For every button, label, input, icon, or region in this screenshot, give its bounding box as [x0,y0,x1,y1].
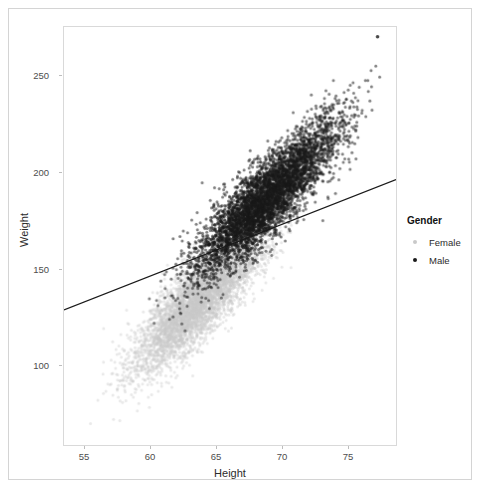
male-dot-icon [413,258,417,262]
x-tick-mark-65 [216,446,217,449]
legend-key-male-icon [407,252,423,268]
y-tick-label-100: 100 [9,360,49,371]
y-tick-mark-250 [59,75,62,76]
x-tick-mark-60 [150,446,151,449]
y-tick-mark-200 [59,172,62,173]
x-tick-mark-75 [348,446,349,449]
legend-item-male[interactable]: Male [407,251,473,269]
legend-label-male: Male [429,255,450,266]
legend-label-female: Female [429,237,461,248]
x-axis-title: Height [63,467,397,479]
legend-title: Gender [407,215,473,226]
x-tick-label-75: 75 [328,451,368,462]
plot-panel [63,26,397,446]
legend-key-female-icon [407,234,423,250]
y-tick-mark-150 [59,269,62,270]
chart-figure: 250 200 150 100 55 60 65 70 75 Height We… [8,8,472,480]
y-tick-mark-100 [59,365,62,366]
legend-item-female[interactable]: Female [407,233,473,251]
y-tick-label-200: 200 [9,167,49,178]
x-tick-mark-70 [282,446,283,449]
x-tick-label-60: 60 [130,451,170,462]
female-dot-icon [413,240,417,244]
y-tick-label-250: 250 [9,70,49,81]
x-tick-mark-55 [84,446,85,449]
regression-line-layer [64,27,396,445]
x-tick-label-70: 70 [262,451,302,462]
y-axis-title: Weight [18,190,30,270]
x-tick-label-55: 55 [64,451,104,462]
fit-line [64,180,396,310]
legend: Gender Female Male [407,215,473,269]
x-tick-label-65: 65 [196,451,236,462]
